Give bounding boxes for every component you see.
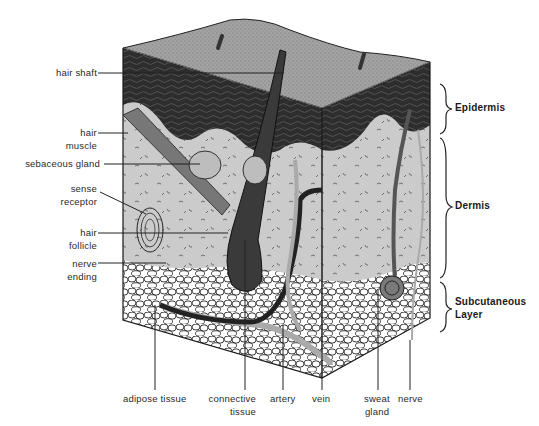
label-text: hair xyxy=(20,226,97,239)
label-vein: vein xyxy=(312,392,330,405)
label-sweat-gland: sweat gland xyxy=(360,392,394,418)
label-text: ending xyxy=(20,270,97,283)
label-text: receptor xyxy=(20,195,97,208)
label-dermis: Dermis xyxy=(455,199,490,212)
label-text: Subcutaneous xyxy=(455,295,526,308)
label-subcutaneous-layer: Subcutaneous Layer xyxy=(455,295,526,321)
dermis-brace xyxy=(440,138,452,278)
label-hair-follicle: hair follicle xyxy=(20,226,97,252)
label-epidermis: Epidermis xyxy=(455,101,505,114)
label-hair-shaft: hair shaft xyxy=(20,66,97,79)
label-text: adipose tissue xyxy=(123,393,187,404)
label-text: hair shaft xyxy=(56,67,97,78)
label-text: sweat xyxy=(360,392,394,405)
label-sebaceous-gland: sebaceous gland xyxy=(0,157,100,170)
label-text: Epidermis xyxy=(455,102,505,113)
label-sense-receptor: sense receptor xyxy=(20,182,97,208)
label-text: Dermis xyxy=(455,200,490,211)
label-text: nerve xyxy=(398,393,423,404)
label-text: hair xyxy=(20,126,97,139)
skin-block-illustration xyxy=(0,0,539,426)
label-text: connective xyxy=(200,392,256,405)
label-adipose-tissue: adipose tissue xyxy=(123,392,187,405)
label-text: sebaceous gland xyxy=(25,158,100,169)
label-connective-tissue: connective tissue xyxy=(200,392,256,418)
label-text: follicle xyxy=(20,239,97,252)
skin-cross-section-diagram: hair shaft hair muscle sebaceous gland s… xyxy=(0,0,539,426)
epidermis-brace xyxy=(440,84,452,134)
label-text: vein xyxy=(312,393,330,404)
label-text: artery xyxy=(270,393,295,404)
label-text: Layer xyxy=(455,308,526,321)
sebaceous-gland-shape xyxy=(189,151,221,179)
label-artery: artery xyxy=(270,392,295,405)
label-nerve-ending: nerve ending xyxy=(20,257,97,283)
label-text: muscle xyxy=(20,139,97,152)
label-text: tissue xyxy=(200,405,256,418)
label-hair-muscle: hair muscle xyxy=(20,126,97,152)
subcutaneous-brace xyxy=(440,282,452,332)
sweat-gland-coil xyxy=(380,276,404,300)
label-nerve: nerve xyxy=(398,392,423,405)
label-text: sense xyxy=(20,182,97,195)
label-text: nerve xyxy=(20,257,97,270)
label-text: gland xyxy=(360,405,394,418)
